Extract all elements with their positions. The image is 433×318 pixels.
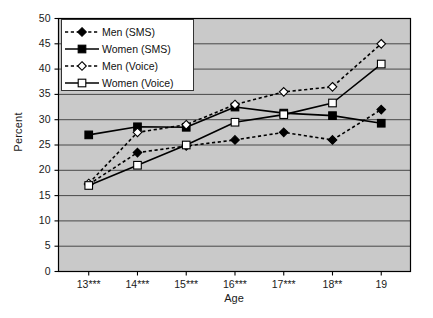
legend-item-women-sms[interactable]: Women (SMS): [62, 40, 195, 58]
legend-label: Women (Voice): [102, 77, 174, 89]
x-axis-title: Age: [58, 292, 410, 304]
legend-item-men-sms[interactable]: Men (SMS): [62, 23, 195, 41]
y-tick-label: 20: [25, 163, 51, 175]
data-point-marker-open-square: [182, 141, 190, 149]
legend-swatch-filled-square: [62, 40, 102, 58]
data-point-marker-open-square: [280, 111, 288, 119]
data-point-marker-open-square: [78, 79, 86, 87]
legend-item-men-voice[interactable]: Men (Voice): [62, 57, 195, 75]
legend-label: Women (SMS): [102, 43, 171, 55]
data-point-marker-filled-diamond: [78, 28, 87, 37]
data-point-marker-open-square: [231, 118, 239, 126]
legend-swatch-open-diamond: [62, 57, 102, 75]
data-point-marker-filled-square: [78, 45, 86, 53]
data-point-marker-open-square: [134, 161, 142, 169]
y-tick-label: 5: [25, 239, 51, 251]
y-tick-label: 45: [25, 37, 51, 49]
x-tick-label: 19: [351, 278, 411, 290]
y-tick-label: 25: [25, 138, 51, 150]
data-point-marker-filled-square: [377, 119, 385, 127]
legend-swatch-open-square: [62, 74, 102, 92]
data-point-marker-open-square: [85, 182, 93, 190]
legend-swatch-filled-diamond: [62, 23, 102, 41]
data-point-marker-open-square: [329, 99, 337, 107]
legend-item-women-voice[interactable]: Women (Voice): [62, 74, 195, 92]
data-point-marker-filled-square: [85, 131, 93, 139]
legend-label: Men (SMS): [102, 26, 155, 38]
legend-label: Men (Voice): [102, 60, 158, 72]
chart-legend: Men (SMS)Women (SMS)Men (Voice)Women (Vo…: [61, 19, 194, 91]
y-tick-label: 30: [25, 113, 51, 125]
chart-figure: Percent Age 05101520253035404550 13***14…: [0, 0, 433, 318]
y-tick-label: 50: [25, 12, 51, 24]
y-axis-title: Percent: [12, 92, 24, 172]
data-point-marker-open-square: [377, 60, 385, 68]
y-tick-label: 40: [25, 62, 51, 74]
y-tick-label: 15: [25, 189, 51, 201]
y-tick-label: 10: [25, 214, 51, 226]
data-point-marker-filled-square: [329, 112, 337, 120]
y-tick-label: 35: [25, 87, 51, 99]
y-tick-label: 0: [25, 265, 51, 277]
data-point-marker-open-diamond: [78, 62, 87, 71]
